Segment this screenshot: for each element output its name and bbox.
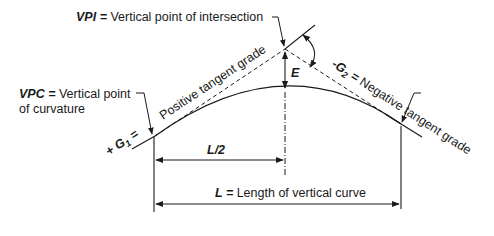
- vpi-leader: [272, 17, 284, 46]
- positive-tangent-extension: [285, 25, 315, 49]
- half-length-label: L/2: [207, 143, 225, 157]
- vpc-label-line1: VPC = Vertical point: [19, 87, 131, 101]
- length-label: L = Length of vertical curve: [215, 186, 366, 200]
- vpc-leader: [136, 93, 152, 134]
- vpc-label-line2: of curvature: [19, 102, 85, 116]
- g1-label: + G1 =: [103, 126, 143, 160]
- vertical-curve-diagram: VPI = Vertical point of intersection VPC…: [0, 0, 494, 236]
- e-label: E: [291, 66, 300, 80]
- vpi-label: VPI = Vertical point of intersection: [76, 10, 263, 24]
- positive-grade-label: Positive tangent grade: [157, 42, 268, 122]
